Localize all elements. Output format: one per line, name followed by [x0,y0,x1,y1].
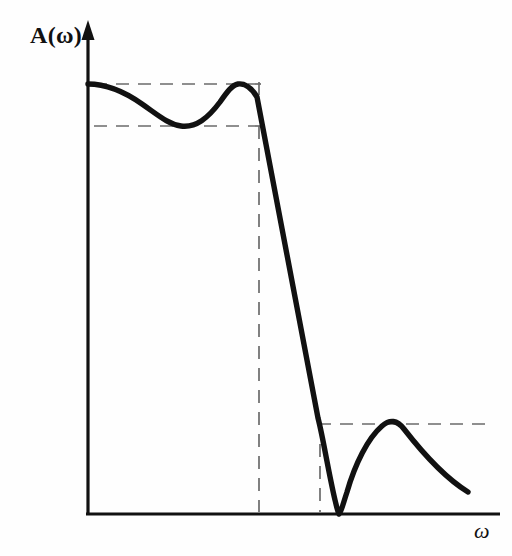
y-axis-label: A(ω) [30,22,82,49]
x-axis-label: ω [474,518,490,544]
y-axis-arrowhead [82,20,95,40]
amplitude-response-curve [88,84,468,514]
response-curve-group [88,84,468,514]
filter-response-plot [0,0,512,556]
filter-response-figure: A(ω) ω [0,0,512,556]
